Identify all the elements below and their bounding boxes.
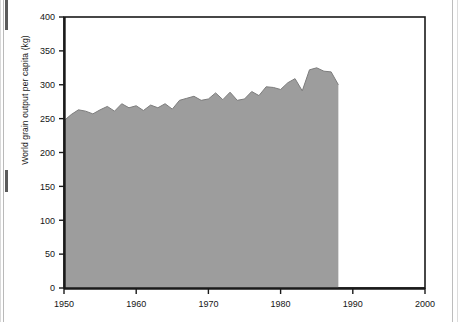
y-tick-label: 400 (40, 12, 55, 22)
area-chart-plot: 050100150200250300350400 195019601970198… (0, 0, 460, 322)
y-tick-label: 250 (40, 114, 55, 124)
x-tick-label: 1950 (54, 299, 74, 309)
y-tick-label: 50 (45, 249, 55, 259)
y-tick-label: 0 (50, 283, 55, 293)
x-tick-label: 1990 (343, 299, 363, 309)
y-tick-label: 300 (40, 80, 55, 90)
x-tick-label: 1970 (198, 299, 218, 309)
x-axis-ticks: 195019601970198019902000 (54, 288, 435, 309)
y-tick-label: 150 (40, 182, 55, 192)
y-tick-label: 200 (40, 148, 55, 158)
x-tick-label: 1960 (126, 299, 146, 309)
x-tick-label: 1980 (271, 299, 291, 309)
y-tick-label: 350 (40, 46, 55, 56)
y-axis-ticks: 050100150200250300350400 (40, 12, 64, 293)
y-tick-label: 100 (40, 216, 55, 226)
chart-figure: World grain output per capita (kg) 05010… (0, 0, 460, 322)
x-tick-label: 2000 (415, 299, 435, 309)
